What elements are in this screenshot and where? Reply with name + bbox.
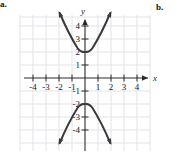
graph-canvas: -4 -3 -2 -1 1 2 3 4 4 3 2 1 -1 -2 -3 -4 …	[0, 0, 177, 155]
y-axis	[82, 19, 89, 151]
x-tick-label-2: 2	[109, 82, 114, 92]
x-tick-label-3: 3	[122, 82, 127, 92]
arrow-lower-right	[107, 138, 112, 145]
x-axis-label: x	[152, 73, 157, 83]
y-tick-label--4: -4	[73, 125, 81, 135]
x-tick-label-1: 1	[96, 82, 101, 92]
x-tick-label--2: -2	[55, 82, 63, 92]
y-tick-label-3: 3	[76, 34, 81, 44]
hyperbola-figure: -4 -3 -2 -1 1 2 3 4 4 3 2 1 -1 -2 -3 -4 …	[0, 0, 177, 155]
x-tick-label--3: -3	[42, 82, 50, 92]
x-axis	[24, 75, 148, 82]
arrow-lower-left	[59, 138, 64, 145]
y-tick-label-4: 4	[76, 21, 81, 31]
x-tick-label-4: 4	[135, 82, 140, 92]
x-tick-label--4: -4	[29, 82, 37, 92]
y-tick-label-1: 1	[76, 60, 81, 70]
y-tick-label--1: -1	[73, 86, 81, 96]
y-axis-label: y	[80, 6, 85, 16]
